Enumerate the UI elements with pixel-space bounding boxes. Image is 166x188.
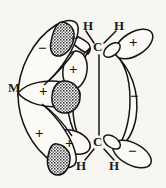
sign-metal-lower-outer: + [35, 126, 44, 141]
atom-label-carbon-top: C [93, 40, 102, 53]
sign-metal-upper-outer: − [38, 41, 47, 56]
atom-label-metal: M [8, 81, 20, 94]
atom-label-hydrogen-top-left: H [83, 19, 93, 32]
sign-alkene-pistar-top-right: + [129, 35, 138, 50]
sign-metal-central: + [39, 84, 48, 99]
atom-label-hydrogen-bottom-left: H [76, 159, 86, 172]
sign-alkene-pistar-mid-right: − [130, 89, 139, 104]
atom-label-hydrogen-top-right: H [114, 19, 124, 32]
sign-alkene-pistar-bottom-right: − [128, 144, 137, 159]
sign-alkene-pi-mid-upper: + [69, 62, 78, 77]
atom-label-carbon-bottom: C [93, 135, 102, 148]
sign-alkene-pi-top-left: − [70, 31, 79, 46]
orbital-interaction-figure: M C C H H H H − − + + + + + − − [0, 0, 166, 188]
atom-label-hydrogen-bottom-right: H [109, 159, 119, 172]
shaded-lobe-middle [52, 81, 80, 113]
sign-alkene-pi-bottom-left: + [65, 136, 74, 151]
